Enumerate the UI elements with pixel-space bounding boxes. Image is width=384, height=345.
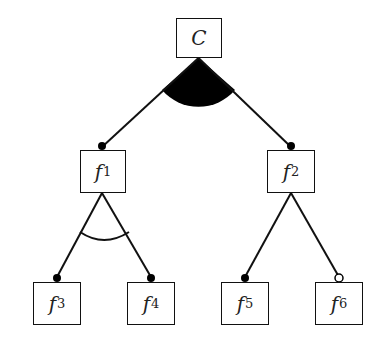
node-label: f bbox=[49, 292, 56, 316]
edge-f1-f3 bbox=[57, 193, 102, 277]
mandatory-marker-f3 bbox=[53, 274, 61, 282]
node-root-c: C bbox=[176, 18, 222, 58]
node-label: f bbox=[237, 292, 244, 316]
mandatory-marker-f2 bbox=[287, 142, 295, 150]
alternative-group-arc bbox=[80, 232, 129, 240]
node-label: f bbox=[283, 160, 290, 184]
node-subscript: 4 bbox=[151, 296, 159, 311]
mandatory-marker-f5 bbox=[241, 274, 249, 282]
node-f5: f5 bbox=[221, 282, 269, 325]
node-f6: f6 bbox=[315, 282, 363, 325]
node-f2: f2 bbox=[267, 150, 315, 193]
node-subscript: 6 bbox=[339, 296, 347, 311]
node-subscript: 1 bbox=[103, 164, 111, 179]
node-subscript: 3 bbox=[57, 296, 65, 311]
node-subscript: 2 bbox=[291, 164, 299, 179]
edge-f2-f6 bbox=[291, 193, 339, 277]
mandatory-marker-f1 bbox=[98, 142, 106, 150]
node-label: f bbox=[143, 292, 150, 316]
edge-f1-f4 bbox=[102, 193, 151, 277]
node-subscript: 5 bbox=[245, 296, 253, 311]
node-f1: f1 bbox=[80, 150, 126, 193]
node-f3: f3 bbox=[33, 282, 81, 325]
node-label: f bbox=[331, 292, 338, 316]
node-f4: f4 bbox=[127, 282, 175, 325]
edge-f2-f5 bbox=[245, 193, 291, 277]
optional-marker-f6 bbox=[335, 274, 343, 282]
mandatory-marker-f4 bbox=[147, 274, 155, 282]
node-label: f bbox=[95, 160, 102, 184]
node-label: C bbox=[191, 26, 206, 50]
